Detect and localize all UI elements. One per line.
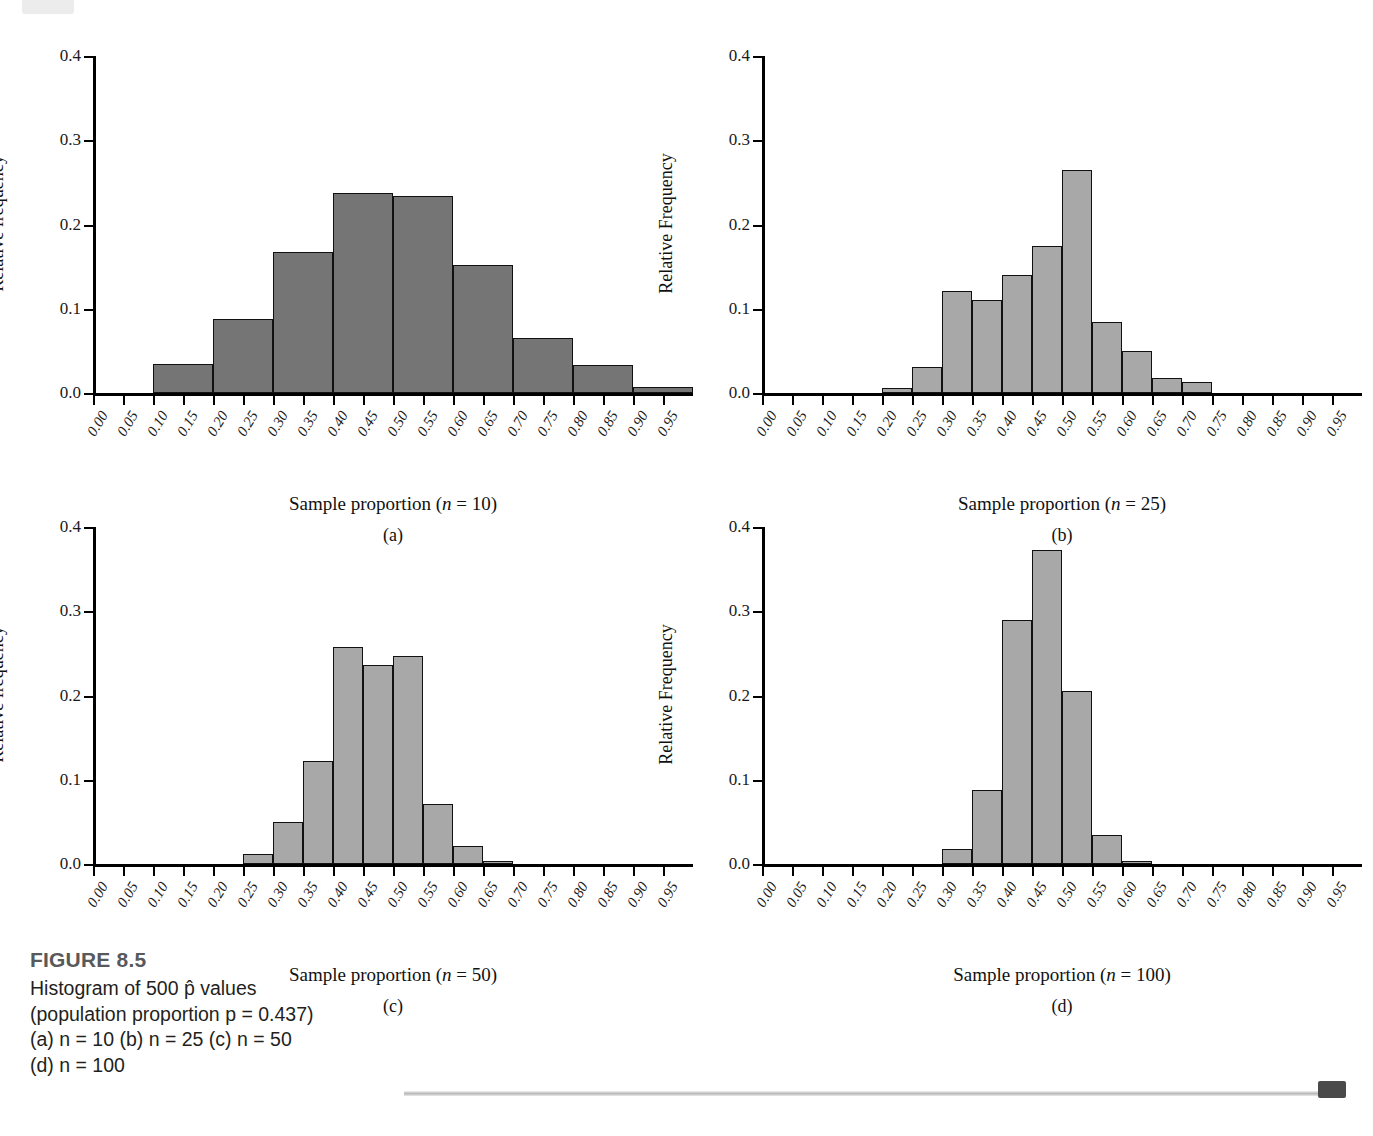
x-tick-b-18 [1302, 396, 1304, 405]
x-tick-label-c-11: 0.55 [414, 879, 442, 910]
y-tick-a-1 [84, 309, 93, 311]
horizontal-scrollbar-thumb[interactable] [1318, 1081, 1346, 1098]
x-tick-label-a-6: 0.30 [264, 408, 292, 439]
x-tick-b-13 [1152, 396, 1154, 405]
x-tick-a-9 [363, 396, 365, 405]
y-tick-d-4 [753, 527, 762, 529]
x-tick-label-a-11: 0.55 [414, 408, 442, 439]
x-tick-label-a-8: 0.40 [324, 408, 352, 439]
horizontal-scrollbar-track[interactable] [404, 1091, 1338, 1096]
y-tick-label-b-1: 0.1 [729, 298, 750, 318]
x-tick-d-16 [1242, 867, 1244, 876]
y-axis-title-b: Relative Frequency [656, 123, 677, 323]
x-tick-b-10 [1062, 396, 1064, 405]
x-tick-label-a-18: 0.90 [624, 408, 652, 439]
histogram-bar [483, 861, 513, 864]
y-tick-label-c-2: 0.2 [60, 685, 81, 705]
x-tick-label-d-5: 0.25 [903, 879, 931, 910]
y-tick-d-3 [753, 611, 762, 613]
histogram-bar [393, 656, 423, 864]
x-axis-title-suffix-d: = 100) [1116, 964, 1171, 985]
histogram-bar [912, 367, 942, 393]
histogram-panel-a: 0.00.10.20.30.40.000.050.100.150.200.250… [93, 56, 693, 393]
x-tick-a-10 [393, 396, 395, 405]
y-tick-label-d-1: 0.1 [729, 769, 750, 789]
x-tick-b-17 [1272, 396, 1274, 405]
x-tick-label-d-18: 0.90 [1293, 879, 1321, 910]
x-tick-d-14 [1182, 867, 1184, 876]
x-tick-label-c-16: 0.80 [564, 879, 592, 910]
x-tick-label-a-14: 0.70 [504, 408, 532, 439]
y-tick-label-d-0: 0.0 [729, 854, 750, 874]
y-tick-label-a-0: 0.0 [60, 383, 81, 403]
y-axis-title-a: Relative frequency [0, 123, 8, 323]
x-tick-c-4 [213, 867, 215, 876]
x-tick-label-a-1: 0.05 [114, 408, 142, 439]
y-tick-label-c-0: 0.0 [60, 854, 81, 874]
y-tick-d-0 [753, 864, 762, 866]
x-tick-c-18 [633, 867, 635, 876]
figure-number: FIGURE 8.5 [30, 948, 460, 972]
histogram-panel-b: 0.00.10.20.30.40.000.050.100.150.200.250… [762, 56, 1362, 393]
y-tick-b-0 [753, 393, 762, 395]
x-tick-label-a-4: 0.20 [204, 408, 232, 439]
x-tick-b-12 [1122, 396, 1124, 405]
histogram-bar [1122, 861, 1152, 864]
caption-line-3: (a) n = 10 (b) n = 25 (c) n = 50 [30, 1027, 460, 1053]
histogram-bar [1062, 691, 1092, 864]
y-tick-c-4 [84, 527, 93, 529]
x-tick-b-9 [1032, 396, 1034, 405]
x-tick-label-b-2: 0.10 [813, 408, 841, 439]
x-tick-label-c-2: 0.10 [144, 879, 172, 910]
histogram-bar [363, 665, 393, 864]
histogram-bar [333, 193, 393, 393]
x-tick-label-b-15: 0.75 [1203, 408, 1231, 439]
y-axis-title-d: Relative Frequency [656, 594, 677, 794]
histogram-bar [942, 291, 972, 393]
x-tick-label-d-16: 0.80 [1233, 879, 1261, 910]
x-tick-label-d-12: 0.60 [1113, 879, 1141, 910]
x-axis-title-prefix-b: Sample proportion ( [958, 493, 1111, 514]
histogram-bar [1092, 835, 1122, 864]
x-tick-d-19 [1332, 867, 1334, 876]
x-tick-label-b-17: 0.85 [1263, 408, 1291, 439]
x-tick-a-12 [453, 396, 455, 405]
histogram-bar [1182, 382, 1212, 393]
figure-page: 0.00.10.20.30.40.000.050.100.150.200.250… [0, 0, 1373, 1136]
x-tick-label-d-1: 0.05 [783, 879, 811, 910]
x-tick-label-d-14: 0.70 [1173, 879, 1201, 910]
x-tick-c-2 [153, 867, 155, 876]
y-tick-label-d-3: 0.3 [729, 601, 750, 621]
x-tick-a-1 [123, 396, 125, 405]
x-tick-label-b-16: 0.80 [1233, 408, 1261, 439]
y-tick-c-3 [84, 611, 93, 613]
histogram-bar [1152, 378, 1182, 393]
x-tick-label-c-14: 0.70 [504, 879, 532, 910]
x-tick-c-7 [303, 867, 305, 876]
x-tick-d-18 [1302, 867, 1304, 876]
x-tick-label-d-0: 0.00 [753, 879, 781, 910]
x-tick-a-3 [183, 396, 185, 405]
x-tick-a-13 [483, 396, 485, 405]
x-tick-label-a-10: 0.50 [384, 408, 412, 439]
x-tick-d-12 [1122, 867, 1124, 876]
x-tick-b-11 [1092, 396, 1094, 405]
x-tick-b-6 [942, 396, 944, 405]
x-tick-b-3 [852, 396, 854, 405]
y-tick-b-4 [753, 56, 762, 58]
x-tick-c-6 [273, 867, 275, 876]
x-tick-c-1 [123, 867, 125, 876]
histogram-bar [153, 364, 213, 393]
y-tick-a-0 [84, 393, 93, 395]
y-tick-label-a-3: 0.3 [60, 130, 81, 150]
x-tick-b-5 [912, 396, 914, 405]
x-tick-b-0 [762, 396, 764, 405]
x-tick-label-c-8: 0.40 [324, 879, 352, 910]
x-tick-label-c-9: 0.45 [354, 879, 382, 910]
histogram-bar [1092, 322, 1122, 393]
histogram-bar [393, 196, 453, 393]
x-tick-label-b-10: 0.50 [1053, 408, 1081, 439]
x-tick-label-a-13: 0.65 [474, 408, 502, 439]
x-tick-label-c-10: 0.50 [384, 879, 412, 910]
x-tick-b-15 [1212, 396, 1214, 405]
